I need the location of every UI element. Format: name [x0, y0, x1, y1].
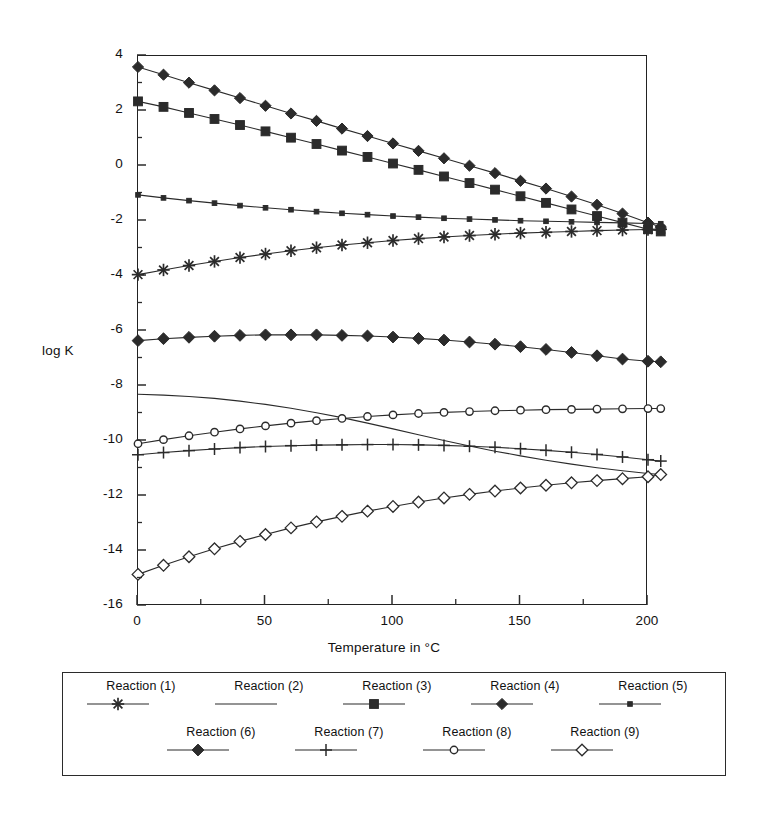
y-tick-label: -10 — [83, 431, 123, 446]
series-5 — [136, 193, 663, 226]
legend-item[interactable]: Reaction (8) — [417, 725, 537, 760]
y-tick-label: 4 — [83, 46, 123, 61]
diamond-filled-icon — [465, 694, 539, 714]
legend-label: Reaction (8) — [417, 725, 537, 739]
circle-open-icon — [417, 740, 491, 760]
y-tick-label: 2 — [83, 101, 123, 116]
legend-item[interactable]: Reaction (2) — [209, 679, 329, 714]
legend-item[interactable]: Reaction (4) — [465, 679, 585, 714]
square-dot-icon — [337, 694, 411, 714]
y-tick-label: -14 — [83, 541, 123, 556]
x-tick-label: 200 — [622, 613, 672, 628]
diamond-open-icon — [545, 740, 619, 760]
legend-row: Reaction (1)Reaction (2)Reaction (3)Reac… — [63, 679, 725, 725]
legend-item[interactable]: Reaction (3) — [337, 679, 457, 714]
series-4 — [132, 61, 666, 232]
star-icon — [81, 694, 155, 714]
legend-label: Reaction (4) — [465, 679, 585, 693]
legend-row: Reaction (6)Reaction (7)Reaction (8)Reac… — [63, 725, 725, 771]
series-8 — [134, 405, 664, 448]
legend-label: Reaction (6) — [161, 725, 281, 739]
legend-label: Reaction (1) — [81, 679, 201, 693]
chart-plot-region: 420-2-4-6-8-10-12-14-16 050100150200 log… — [0, 0, 768, 660]
diamond-large-icon — [161, 740, 235, 760]
y-axis-title: log K — [42, 343, 74, 358]
y-tick-label: -6 — [83, 321, 123, 336]
y-tick-label: 0 — [83, 156, 123, 171]
y-tick-label: -16 — [83, 596, 123, 611]
x-tick-label: 150 — [495, 613, 545, 628]
y-tick-label: -4 — [83, 266, 123, 281]
x-tick-label: 50 — [240, 613, 290, 628]
plot-frame — [137, 55, 647, 605]
y-tick-label: -8 — [83, 376, 123, 391]
legend-label: Reaction (7) — [289, 725, 409, 739]
series-7 — [132, 439, 667, 468]
x-tick-label: 0 — [112, 613, 162, 628]
legend: Reaction (1)Reaction (2)Reaction (3)Reac… — [62, 672, 726, 776]
legend-item[interactable]: Reaction (9) — [545, 725, 665, 760]
legend-label: Reaction (3) — [337, 679, 457, 693]
plus-icon — [289, 740, 363, 760]
series-3 — [134, 97, 666, 236]
legend-label: Reaction (2) — [209, 679, 329, 693]
x-tick-label: 100 — [367, 613, 417, 628]
square-small-icon — [593, 694, 667, 714]
x-axis-title: Temperature in °C — [0, 640, 768, 655]
series-1 — [132, 223, 667, 281]
line-icon — [209, 694, 283, 714]
legend-item[interactable]: Reaction (6) — [161, 725, 281, 760]
legend-label: Reaction (9) — [545, 725, 665, 739]
legend-item[interactable]: Reaction (5) — [593, 679, 713, 714]
chart-page: 420-2-4-6-8-10-12-14-16 050100150200 log… — [0, 0, 768, 829]
legend-label: Reaction (5) — [593, 679, 713, 693]
y-tick-label: -12 — [83, 486, 123, 501]
series-9 — [132, 469, 666, 580]
legend-item[interactable]: Reaction (1) — [81, 679, 201, 714]
series-6 — [132, 329, 667, 368]
y-tick-label: -2 — [83, 211, 123, 226]
plot-canvas — [138, 56, 648, 606]
legend-item[interactable]: Reaction (7) — [289, 725, 409, 760]
